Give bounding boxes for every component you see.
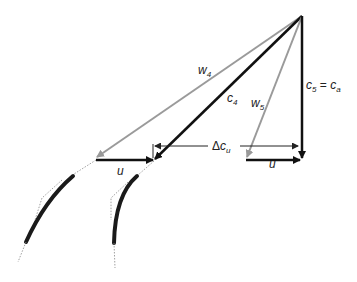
label-delta-cu: Δcu bbox=[212, 139, 231, 155]
w5-vector bbox=[247, 16, 302, 157]
blade-left-tail-guide bbox=[18, 242, 26, 262]
guide-line-inlet bbox=[74, 160, 96, 174]
label-c4: c4 bbox=[227, 91, 238, 107]
label-w4: w4 bbox=[198, 63, 212, 79]
blade-left bbox=[26, 176, 73, 242]
label-u-outlet: u bbox=[269, 157, 276, 171]
label-w5: w5 bbox=[251, 96, 265, 112]
blade-right-tail-guide bbox=[114, 243, 115, 268]
label-u-inlet: u bbox=[117, 164, 124, 178]
label-c5-equals-ca: c5 = ca bbox=[306, 78, 341, 94]
guide-line-outlet bbox=[138, 161, 154, 175]
blade-right bbox=[114, 176, 137, 243]
w4-vector bbox=[97, 16, 302, 157]
c4-vector bbox=[155, 16, 302, 159]
velocity-triangle-diagram: w4 c4 w5 c5 = ca Δcu u u bbox=[0, 0, 357, 282]
